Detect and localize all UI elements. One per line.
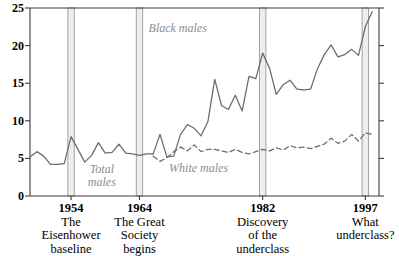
y-axis-label-5: 5 [0,152,24,164]
x-event-caption-1964-1: Society [85,229,193,243]
y-axis-label-0: 0 [0,190,24,202]
x-event-label-1997: 1997Whatunderclass? [311,202,399,243]
white-males-label: White males [169,162,228,175]
black-males-label: Black males [149,22,207,35]
x-event-caption-1982-2: underclass [209,243,317,256]
x-event-caption-1997-1: underclass? [311,229,399,243]
x-event-caption-1964-2: begins [85,243,193,256]
x-event-label-1964: 1964The GreatSocietybegins [85,202,193,256]
series-line-total-males [30,137,153,165]
event-band-1982 [259,8,265,196]
event-band-1964 [136,8,142,196]
x-event-year-1997: 1997 [311,202,399,216]
x-event-label-1982: 1982Discoveryof theunderclass [209,202,317,256]
x-event-caption-1982-0: Discovery [209,216,317,230]
y-axis-label-10: 10 [0,115,24,127]
total-males-label: Totalmales [78,163,126,189]
x-event-caption-1982-1: of the [209,229,317,243]
x-event-caption-1964-0: The Great [85,216,193,230]
y-axis-label-25: 25 [0,2,24,14]
x-event-caption-1997-0: What [311,216,399,230]
x-event-year-1964: 1964 [85,202,193,216]
x-event-year-1982: 1982 [209,202,317,216]
event-band-1954 [68,8,74,196]
y-axis-label-20: 20 [0,40,24,52]
y-axis-label-15: 15 [0,77,24,89]
x-axis-ticks [71,196,365,200]
